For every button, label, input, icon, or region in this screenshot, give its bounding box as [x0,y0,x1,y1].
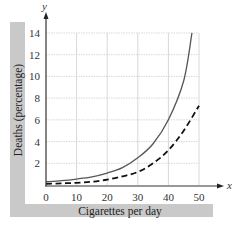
y-tick-label: 14 [29,27,41,39]
data-curves [46,33,199,184]
y-tick-label: 12 [29,49,40,61]
y-tick-label: 2 [35,157,41,169]
y-tick-label: 8 [35,92,41,104]
x-tick-label: 20 [102,191,114,203]
solid-curve [46,33,192,182]
y-axis-arrow-icon [44,12,49,19]
gridlines [46,33,199,185]
x-axis-arrow-icon [217,184,224,189]
y-axis-symbol: y [41,0,47,12]
axes: y x [41,0,232,191]
dashed-curve [46,106,199,184]
x-tick-label: 50 [194,191,206,203]
x-tick-label: 40 [163,191,175,203]
y-tick-label: 4 [35,136,41,148]
chart-plot: 010203040502468101214 y x [0,0,238,227]
x-tick-label: 30 [132,191,144,203]
x-axis-symbol: x [226,179,232,191]
x-tick-label: 10 [71,191,83,203]
y-tick-label: 6 [35,114,41,126]
y-tick-label: 10 [29,70,41,82]
tick-labels: 010203040502468101214 [29,27,205,203]
x-tick-label: 0 [43,191,49,203]
